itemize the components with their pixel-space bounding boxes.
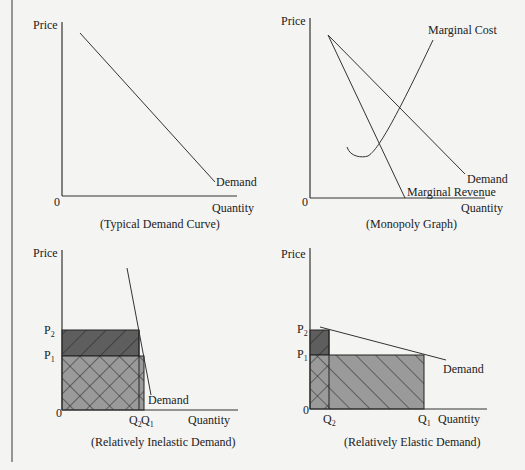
caption: (Typical Demand Curve) [100,217,220,231]
q2-label: Q2 [129,413,142,429]
marginal-cost-label: Marginal Cost [428,23,497,37]
panel-monopoly: Price 0 Quantity Marginal Cost Demand Ma… [281,14,508,231]
p2-label: P2 [44,323,55,339]
caption: (Monopoly Graph) [366,217,457,231]
y-axis-label: Price [281,247,306,261]
q1-label: Q1 [418,412,431,428]
demand-curve [80,33,215,182]
panel-inelastic: Price P2 P1 0 Q2 Q1 Quantity Demand (Rel… [33,246,238,449]
demand-label: Demand [467,172,508,186]
x-axis-label: Quantity [212,201,254,215]
caption: (Relatively Inelastic Demand) [91,435,236,449]
y-axis-label: Price [33,246,58,260]
panel-typical-demand: Price 0 Quantity Demand (Typical Demand … [33,18,257,231]
demand-label: Demand [216,175,257,189]
cross-hatch-overlap [310,355,329,409]
origin-label: 0 [303,403,309,417]
p1-label: P1 [44,348,55,364]
y-axis-label: Price [33,18,58,32]
origin-label: 0 [54,195,60,209]
marginal-revenue-label: Marginal Revenue [407,185,496,199]
panel-elastic: Price P2 P1 0 Q2 Q1 Quantity Demand (Rel… [281,247,487,449]
y-axis-label: Price [281,14,306,28]
demand-label: Demand [148,393,189,407]
demand-label: Demand [443,362,484,376]
demand-curve [328,35,465,174]
q2-label: Q2 [323,412,336,428]
economics-diagrams: Price 0 Quantity Demand (Typical Demand … [0,0,525,470]
marginal-revenue-curve [328,35,405,198]
x-axis-label: Quantity [461,201,503,215]
x-axis-label: Quantity [188,413,230,427]
origin-label: 0 [56,406,62,420]
p2-label: P2 [297,322,308,338]
revenue-p2-band-hatch [62,330,139,356]
cross-hatch-b [62,356,144,410]
x-axis-label: Quantity [438,412,480,426]
caption: (Relatively Elastic Demand) [344,435,481,449]
origin-label: 0 [302,195,308,209]
p2-band-hatch [310,330,329,355]
p1-label: P1 [297,347,308,363]
q1-label: Q1 [141,413,154,429]
